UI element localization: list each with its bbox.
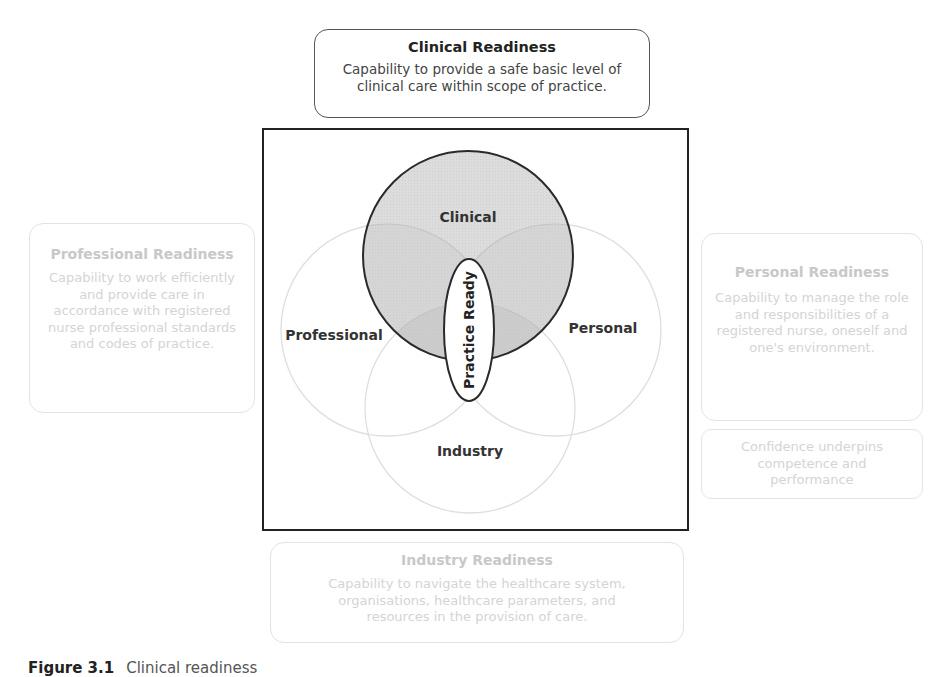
- professional-label: Professional: [285, 327, 383, 343]
- personal-label: Personal: [569, 320, 638, 336]
- clinical-label: Clinical: [439, 209, 496, 225]
- figure-caption: Figure 3.1Clinical readiness: [28, 659, 257, 677]
- practice-ready-label: Practice Ready: [461, 271, 477, 389]
- industry-label: Industry: [437, 443, 503, 459]
- figure-number: Figure 3.1: [28, 659, 114, 677]
- figure-caption-text: Clinical readiness: [126, 659, 257, 677]
